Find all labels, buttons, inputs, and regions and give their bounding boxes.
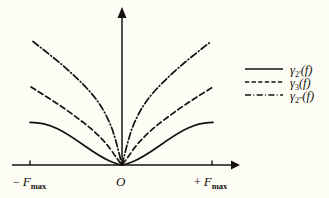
legend-item-gamma2second[interactable]: γ2″(f) xyxy=(245,89,314,105)
x-axis-labels: −Fmax O +Fmax xyxy=(13,174,228,191)
legend: γ2′(f) γ3(f) γ2″(f) xyxy=(245,63,314,105)
legend-label-gamma2second: γ2″(f) xyxy=(290,89,314,105)
figure-container: −Fmax O +Fmax γ2′(f) γ3(f) γ2″(f) xyxy=(0,0,329,198)
x-axis xyxy=(12,161,240,170)
x-tick-label-right: +Fmax xyxy=(194,174,228,191)
legend-item-gamma3[interactable]: γ3(f) xyxy=(245,76,311,92)
x-axis-arrow-icon xyxy=(231,161,240,170)
y-axis-arrow-icon xyxy=(118,7,127,18)
plot-canvas: −Fmax O +Fmax γ2′(f) γ3(f) γ2″(f) xyxy=(0,0,329,198)
x-tick-label-left: −Fmax xyxy=(13,174,47,191)
origin-label: O xyxy=(116,174,126,189)
y-axis xyxy=(118,7,127,165)
